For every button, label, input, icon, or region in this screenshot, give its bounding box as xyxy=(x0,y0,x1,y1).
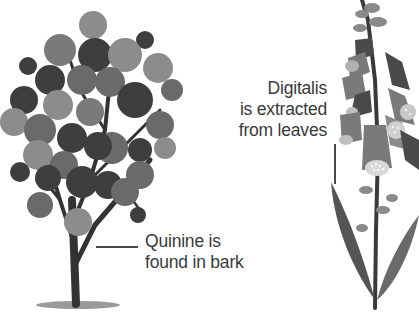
digitalis-label-line-1: Digitalis xyxy=(220,78,327,99)
quinine-label: Quinine is found in bark xyxy=(145,231,244,273)
foxglove-leaf-left xyxy=(331,182,375,300)
foxglove-illustration xyxy=(331,0,419,308)
illustration-canvas xyxy=(0,0,419,326)
tree-foliage xyxy=(0,11,183,236)
foxglove-leaf-right xyxy=(377,215,419,300)
digitalis-label: Digitalis is extracted from leaves xyxy=(220,78,327,141)
foxglove-flowers xyxy=(339,38,419,176)
quinine-label-line-1: Quinine is xyxy=(145,231,244,252)
digitalis-leader-line xyxy=(334,144,336,184)
digitalis-label-line-2: is extracted xyxy=(220,99,327,120)
medicinal-plants-illustration: Quinine is found in bark Digitalis is ex… xyxy=(0,0,419,326)
quinine-leader-line xyxy=(96,246,138,248)
digitalis-label-line-3: from leaves xyxy=(220,120,327,141)
quinine-label-line-2: found in bark xyxy=(145,252,244,273)
